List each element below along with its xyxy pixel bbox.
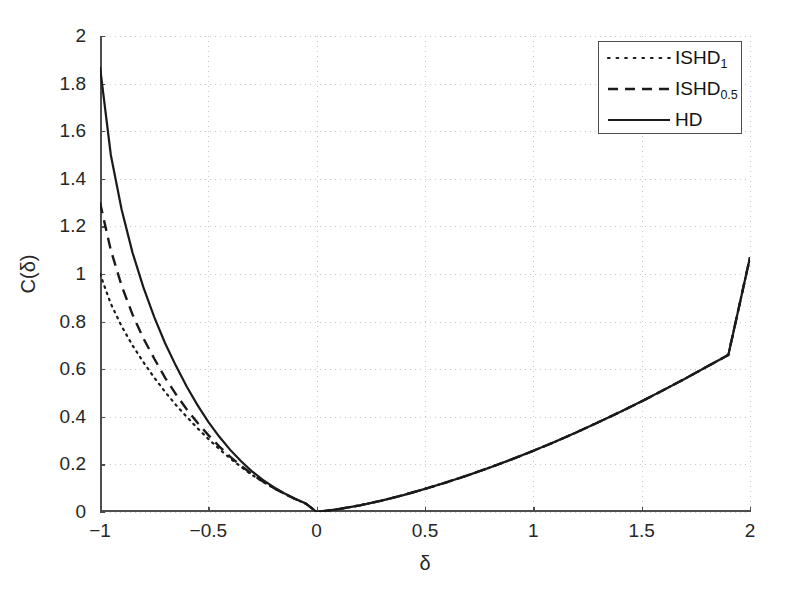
y-tick-label: 0.6 xyxy=(60,358,86,380)
x-tick-label: 0 xyxy=(311,520,322,542)
x-tick-label: 1.5 xyxy=(628,520,654,542)
legend-label-subscript: 0.5 xyxy=(720,88,737,102)
legend-label: HD xyxy=(675,110,702,129)
x-axis-title: δ xyxy=(100,552,750,575)
legend-line-sample xyxy=(606,49,672,67)
legend-entry: ISHD1 xyxy=(599,42,741,73)
legend-label: ISHD0.5 xyxy=(675,79,738,98)
y-tick-label: 1.4 xyxy=(60,168,86,190)
x-tick-label: −1 xyxy=(89,520,111,542)
y-tick-label: 0.2 xyxy=(60,453,86,475)
curve-ISHD-0.5 xyxy=(100,203,750,512)
y-tick-label: 1.6 xyxy=(60,120,86,142)
x-tick xyxy=(750,507,751,512)
legend-label-main: ISHD xyxy=(675,47,720,68)
legend-label-main: ISHD xyxy=(675,78,720,99)
gridline-horizontal xyxy=(100,512,750,513)
figure-canvas: 00.20.40.60.811.21.41.61.82 −1−0.500.511… xyxy=(0,0,795,604)
legend-line-sample xyxy=(606,80,672,98)
y-tick-label: 1.8 xyxy=(60,73,86,95)
y-axis-title: C(δ) xyxy=(14,36,42,512)
legend-label-subscript: 1 xyxy=(720,57,727,71)
y-tick-label: 0 xyxy=(75,501,86,523)
y-tick-label: 0.8 xyxy=(60,311,86,333)
legend-label-main: HD xyxy=(675,109,702,130)
gridline-vertical xyxy=(750,36,751,512)
curve-ISHD-1 xyxy=(100,257,750,512)
legend-entry: ISHD0.5 xyxy=(599,73,741,104)
y-tick xyxy=(100,512,105,513)
y-tick-label: 1 xyxy=(75,263,86,285)
y-tick-label: 2 xyxy=(75,25,86,47)
x-tick-label: 2 xyxy=(745,520,756,542)
x-tick-label: 0.5 xyxy=(412,520,438,542)
y-tick-label: 1.2 xyxy=(60,215,86,237)
y-tick-label: 0.4 xyxy=(60,406,86,428)
legend-entry: HD xyxy=(599,104,741,135)
x-tick-label: −0.5 xyxy=(190,520,228,542)
x-tick-labels: −1−0.500.511.52 xyxy=(100,520,750,550)
legend-label: ISHD1 xyxy=(675,48,727,67)
legend-line-sample xyxy=(606,111,672,129)
legend-box: ISHD1ISHD0.5HD xyxy=(598,41,742,134)
y-axis-title-text: C(δ) xyxy=(17,255,40,294)
x-tick-label: 1 xyxy=(528,520,539,542)
